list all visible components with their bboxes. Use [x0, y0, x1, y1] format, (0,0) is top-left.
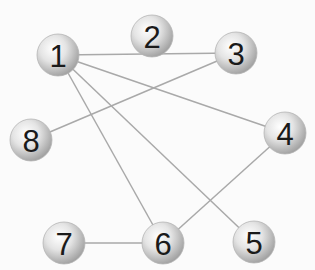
node-1: 1 [37, 34, 79, 76]
edge-1-6 [58, 55, 163, 243]
node-5: 5 [233, 221, 275, 263]
node-7: 7 [43, 222, 85, 264]
node-4: 4 [264, 112, 306, 154]
node-8: 8 [10, 119, 52, 161]
node-label: 4 [276, 117, 293, 152]
nodes-layer: 12345678 [10, 15, 306, 264]
edge-1-5 [58, 55, 254, 242]
node-label: 6 [154, 227, 171, 262]
node-label: 5 [245, 226, 262, 261]
node-label: 1 [49, 39, 66, 74]
graph-diagram: 12345678 [0, 0, 315, 270]
node-2: 2 [131, 15, 173, 57]
node-6: 6 [142, 222, 184, 264]
node-label: 3 [227, 37, 244, 72]
node-label: 2 [143, 20, 160, 55]
node-label: 8 [22, 124, 39, 159]
graph-canvas: 12345678 [0, 0, 315, 270]
node-3: 3 [215, 32, 257, 74]
node-label: 7 [55, 227, 72, 262]
edges-layer [31, 53, 285, 243]
